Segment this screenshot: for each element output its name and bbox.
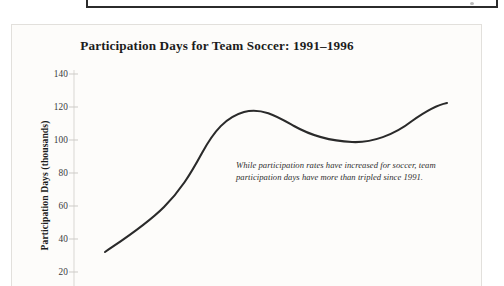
page-artifact-speck (470, 2, 474, 5)
chart-plot-svg (12, 25, 482, 286)
chart-card: Participation Days for Team Soccer: 1991… (11, 24, 482, 286)
cut-off-frame-above (86, 0, 498, 8)
plot-area: 140 120 100 80 60 40 20 While participat… (12, 25, 482, 286)
chart-annotation: While participation rates have increased… (236, 159, 454, 183)
